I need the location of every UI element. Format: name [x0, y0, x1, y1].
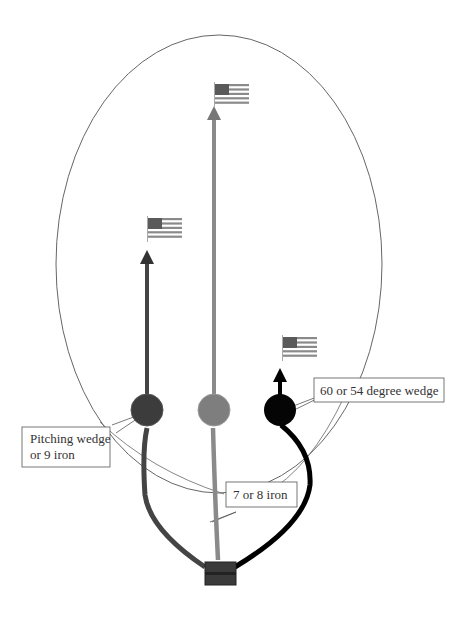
- tee-box-stripe: [205, 572, 236, 575]
- wedge-arrowhead: [273, 368, 287, 382]
- mid-iron-curve: [213, 428, 218, 560]
- callout-wedge-text: 60 or 54 degree wedge: [320, 383, 439, 398]
- us-flag-icon: [147, 216, 182, 242]
- ellipse-connector-left: [100, 422, 224, 494]
- pitching-ball: [131, 394, 163, 426]
- pitching-curve: [144, 428, 205, 567]
- mid-iron-ball: [198, 394, 230, 426]
- wedge-ball: [264, 394, 296, 426]
- callout-pitching-line1: Pitching wedge: [30, 431, 111, 446]
- callout-pitching-line2: or 9 iron: [30, 447, 75, 462]
- us-flag-icon: [282, 335, 317, 361]
- pitching-arrowhead: [140, 250, 154, 264]
- us-flag-icon: [214, 82, 249, 108]
- callout-mid-iron-text: 7 or 8 iron: [233, 487, 288, 502]
- mid-iron-arrowhead: [207, 106, 221, 120]
